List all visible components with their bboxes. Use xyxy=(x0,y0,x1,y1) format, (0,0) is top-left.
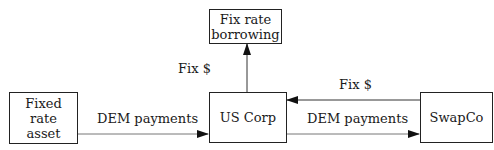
edge-label-fix-usd-borrowing: Fix $ xyxy=(178,61,211,76)
node-swapco-label: SwapCo xyxy=(430,110,484,126)
node-fixed-rate-asset-line1: Fixed xyxy=(25,96,62,111)
node-fixed-rate-asset-line3: asset xyxy=(26,126,60,141)
node-fix-rate-borrowing: Fix rate borrowing xyxy=(209,9,282,44)
node-fixed-rate-asset-line2: rate xyxy=(30,111,57,126)
node-fix-rate-borrowing-line1: Fix rate xyxy=(220,12,272,27)
node-us-corp: US Corp xyxy=(209,92,287,143)
node-swapco: SwapCo xyxy=(420,92,493,143)
node-us-corp-label: US Corp xyxy=(220,110,276,126)
edge-label-fix-usd-swapco: Fix $ xyxy=(339,77,372,92)
edge-label-dem-payments-swapco: DEM payments xyxy=(307,111,408,126)
node-fixed-rate-asset: Fixed rate asset xyxy=(9,92,78,144)
edge-label-dem-payments-asset: DEM payments xyxy=(97,111,198,126)
node-fix-rate-borrowing-line2: borrowing xyxy=(211,27,279,42)
